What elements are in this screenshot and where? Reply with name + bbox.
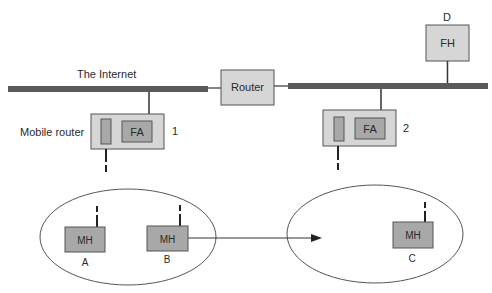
internet-label: The Internet bbox=[77, 68, 136, 80]
movement-arrow-icon bbox=[188, 234, 322, 242]
router-label: Router bbox=[231, 81, 264, 93]
mobile-ip-diagram: Router The Internet D FH FA 1 Mobile rou… bbox=[0, 0, 492, 293]
router-node: Router bbox=[221, 70, 274, 105]
antenna-module-icon bbox=[334, 117, 344, 141]
mobile-router-number-2: 2 bbox=[403, 122, 409, 134]
fixed-host-tag: D bbox=[443, 11, 451, 23]
fixed-host-label: FH bbox=[440, 37, 455, 49]
mobile-router-number-1: 1 bbox=[172, 125, 178, 137]
mobile-router-1: FA 1 bbox=[91, 92, 178, 172]
fixed-host-node: D FH bbox=[426, 11, 469, 83]
cell-right bbox=[287, 185, 463, 283]
mobile-host-label-a: MH bbox=[77, 235, 93, 246]
foreign-agent-label-2: FA bbox=[363, 123, 377, 135]
mobile-host-a: MH A bbox=[65, 206, 105, 268]
antenna-module-icon bbox=[101, 119, 111, 144]
internet-backbone-left bbox=[8, 86, 208, 92]
mobile-host-label-b: MH bbox=[160, 234, 176, 245]
internet-backbone-right bbox=[288, 83, 488, 89]
mobile-host-c: MH C bbox=[393, 202, 433, 264]
mobile-router-2: FA 2 bbox=[323, 89, 409, 170]
mobile-host-label-c: MH bbox=[405, 230, 421, 241]
foreign-agent-label-1: FA bbox=[130, 126, 144, 138]
mobile-host-tag-b: B bbox=[164, 254, 171, 265]
mobile-host-tag-c: C bbox=[408, 253, 415, 264]
mobile-host-b: MH B bbox=[147, 205, 188, 265]
mobile-router-caption: Mobile router bbox=[20, 126, 85, 138]
mobile-host-tag-a: A bbox=[82, 257, 89, 268]
